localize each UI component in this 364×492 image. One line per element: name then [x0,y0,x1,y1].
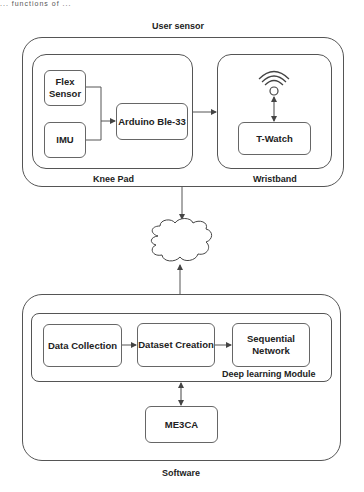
flex-imu-to-arduino-connector [86,87,115,140]
wifi-icon [259,72,289,96]
connectors-layer [0,0,364,492]
cloud-shape [151,219,211,261]
